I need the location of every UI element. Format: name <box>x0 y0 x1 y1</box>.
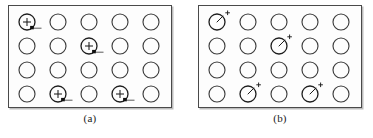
plain-circle <box>240 14 256 30</box>
plain-circle <box>209 62 225 78</box>
plain-circle <box>271 14 287 30</box>
plain-circle <box>240 38 256 54</box>
plain-circle <box>333 38 349 54</box>
plain-circle <box>271 86 287 102</box>
marked-circle <box>302 83 323 103</box>
plain-circle <box>271 62 287 78</box>
plain-circle <box>302 62 318 78</box>
panel-b-box <box>198 5 362 108</box>
marked-circle <box>271 35 292 55</box>
marked-circle <box>209 11 230 31</box>
plain-circle <box>333 86 349 102</box>
plain-circle <box>333 14 349 30</box>
panel-b-wrapper: (b) <box>0 0 373 138</box>
plain-circle <box>302 14 318 30</box>
panel-b-caption: (b) <box>198 113 362 124</box>
marked-circle <box>240 83 261 103</box>
plain-circle <box>302 38 318 54</box>
plain-circle <box>333 62 349 78</box>
plain-circle <box>209 86 225 102</box>
panel-b-circle-grid <box>199 6 363 109</box>
plain-circle <box>240 62 256 78</box>
plain-circle <box>209 38 225 54</box>
figure-container: (a) (b) <box>0 0 373 138</box>
